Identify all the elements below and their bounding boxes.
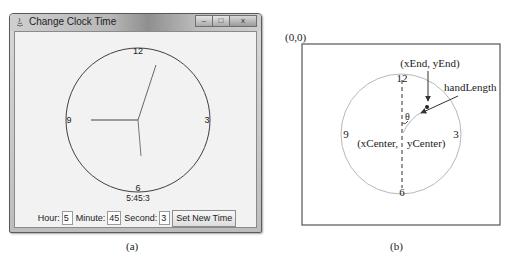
- diagram-number-9: 9: [343, 128, 349, 140]
- diagram-number-12: 12: [397, 72, 408, 84]
- diagram-number-3: 3: [453, 128, 459, 140]
- diagram-number-6: 6: [399, 186, 405, 198]
- hand-end-point: [425, 105, 429, 109]
- center-label-y: yCenter): [407, 137, 446, 150]
- clock-circle-b: [341, 74, 461, 194]
- theta-label: θ: [405, 111, 410, 122]
- center-label-x: (xCenter,: [357, 137, 398, 150]
- clock-geometry-diagram: (0,0) 12 3 6 9 θ (xEnd, yEnd) handLength…: [0, 0, 509, 271]
- end-point-label: (xEnd, yEnd): [400, 57, 460, 70]
- origin-label: (0,0): [285, 31, 306, 44]
- caption-b: (b): [390, 240, 403, 252]
- hand-length-arrow: [421, 96, 458, 113]
- hand-length-label: handLength: [444, 81, 497, 93]
